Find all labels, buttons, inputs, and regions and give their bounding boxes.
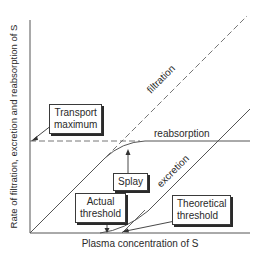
actual-threshold-callout: Actual threshold xyxy=(75,193,126,223)
reabsorption-label: reabsorption xyxy=(154,128,210,140)
x-axis-label: Plasma concentration of S xyxy=(30,238,250,249)
callout-line: maximum xyxy=(54,119,97,131)
splay-callout: Splay xyxy=(113,173,148,191)
theoretical-threshold-arrow xyxy=(126,221,175,231)
transport-maximum-callout: Transport maximum xyxy=(49,104,102,134)
callout-line: Splay xyxy=(118,176,143,188)
callout-line: Theoretical xyxy=(177,198,226,210)
callout-line: Transport xyxy=(54,107,97,119)
theoretical-threshold-callout: Theoretical threshold xyxy=(172,195,231,225)
callout-line: threshold xyxy=(80,208,121,220)
y-axis-label: Rate of filtration, excretion and reabso… xyxy=(8,22,19,232)
callout-line: Actual xyxy=(80,196,121,208)
callout-line: threshold xyxy=(177,210,226,222)
arrowhead xyxy=(31,136,38,141)
arrowhead xyxy=(126,149,131,155)
